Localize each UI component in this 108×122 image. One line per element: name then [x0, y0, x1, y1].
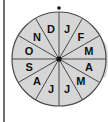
section-label-feb: F [78, 31, 85, 43]
section-label-apr: A [85, 61, 93, 73]
spinner-center-pin [56, 56, 61, 61]
section-label-nov: N [33, 31, 41, 43]
month-spinner: J F M A M J J A S O N D [0, 0, 108, 122]
section-label-oct: O [25, 45, 34, 57]
section-label-jan: J [64, 23, 70, 35]
section-label-jun: J [64, 83, 70, 95]
spinner-pointer-dot [57, 6, 61, 10]
section-label-sep: S [25, 61, 32, 73]
section-label-dec: D [47, 23, 55, 35]
section-label-jul: J [48, 83, 54, 95]
section-label-mar: M [84, 45, 93, 57]
section-label-may: M [76, 75, 85, 87]
section-label-aug: A [33, 75, 41, 87]
